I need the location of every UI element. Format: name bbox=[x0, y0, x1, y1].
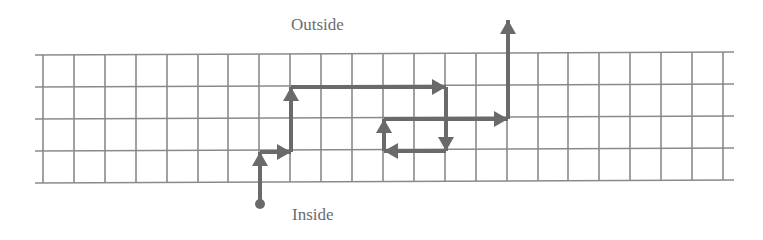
arrowhead-up-icon bbox=[283, 87, 299, 101]
arrowhead-left-icon bbox=[384, 143, 398, 159]
arrowhead-right-icon bbox=[277, 144, 291, 160]
arrowhead-right-icon bbox=[432, 79, 446, 95]
outside-label: Outside bbox=[291, 15, 344, 35]
arrowhead-right-icon bbox=[494, 111, 508, 127]
arrowhead-up-icon bbox=[500, 20, 516, 34]
arrowhead-up-icon bbox=[376, 119, 392, 133]
random-walk-diagram bbox=[0, 0, 763, 240]
grid-line-horizontal bbox=[35, 52, 734, 55]
arrowhead-up-icon bbox=[252, 152, 268, 166]
inside-label: Inside bbox=[292, 205, 334, 225]
grid-line-horizontal bbox=[35, 180, 734, 183]
start-point-dot bbox=[255, 199, 265, 209]
